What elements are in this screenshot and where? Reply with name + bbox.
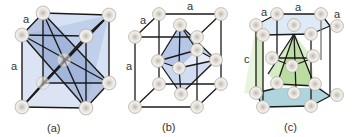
atom	[191, 44, 204, 57]
panel-b: a a a (b)	[126, 0, 228, 133]
atom	[250, 87, 263, 100]
caption-a: (a)	[47, 122, 60, 134]
atom	[129, 31, 142, 44]
atom	[15, 28, 29, 42]
atom	[102, 8, 116, 22]
atom	[173, 62, 186, 75]
edge-label-a: a	[11, 60, 18, 72]
atom	[215, 78, 228, 91]
atom-center	[57, 53, 71, 67]
panel-a: a a (a)	[11, 6, 116, 134]
atom	[257, 101, 270, 114]
panel-c: a a a c (c)	[244, 1, 344, 133]
atom	[152, 55, 165, 68]
atom	[153, 78, 166, 91]
atom	[271, 77, 284, 90]
atom	[175, 88, 188, 101]
atom	[153, 8, 166, 21]
edge-label-a: a	[23, 13, 30, 25]
atom	[331, 20, 344, 33]
atom	[15, 100, 29, 114]
edge-label-a: a	[140, 14, 147, 26]
atom	[309, 78, 322, 91]
atom	[102, 76, 116, 90]
edge-label-a: a	[295, 1, 302, 13]
caption-b: (b)	[162, 121, 175, 133]
edge-label-c: c	[244, 53, 250, 65]
atom	[215, 8, 228, 21]
atom	[191, 31, 204, 44]
edge-label-a: a	[334, 8, 341, 20]
atom	[286, 60, 299, 73]
atom	[174, 19, 187, 32]
edge-label-a: a	[261, 6, 268, 18]
atom	[36, 6, 50, 20]
atom	[288, 87, 301, 100]
atom	[210, 54, 223, 67]
atom	[305, 28, 318, 41]
edge-label-a: a	[126, 60, 133, 72]
atom	[271, 8, 284, 21]
atom	[79, 101, 93, 115]
atom	[307, 50, 320, 63]
atom	[305, 100, 318, 113]
atom	[79, 29, 93, 43]
atom	[331, 89, 344, 102]
edge-label-a: a	[187, 0, 194, 12]
atom	[129, 101, 142, 114]
caption-c: (c)	[284, 121, 297, 133]
atom	[266, 52, 279, 65]
atom	[37, 77, 50, 90]
atom	[191, 101, 204, 114]
atom	[288, 19, 301, 32]
crystal-lattice-figure: a a (a)	[0, 0, 352, 137]
atom	[315, 8, 328, 21]
atom	[257, 29, 270, 42]
